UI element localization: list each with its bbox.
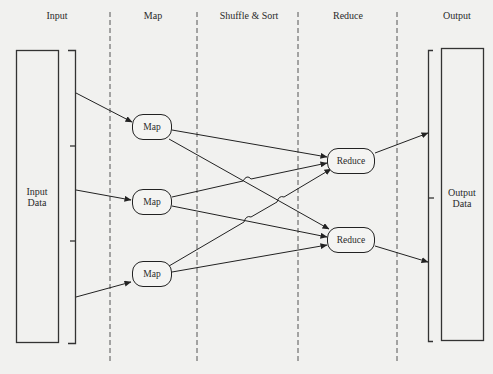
map-node-3: Map	[132, 261, 172, 287]
column-header-output: Output	[443, 10, 471, 21]
arrow-map2-reduce1	[172, 163, 327, 197]
arrow-split2-map2	[76, 190, 131, 200]
arrow-reduce1-output	[375, 133, 428, 153]
split-arrows	[76, 93, 132, 297]
arrow-map3-reduce1	[169, 169, 331, 266]
map-node-1: Map	[132, 114, 172, 140]
reduce-node-label: Reduce	[337, 235, 366, 245]
column-header-map: Map	[144, 10, 162, 21]
column-header-reduce: Reduce	[333, 10, 363, 21]
diagram-lines	[0, 0, 493, 374]
map-node-label: Map	[143, 197, 160, 207]
reduce-node-1: Reduce	[327, 148, 375, 174]
arrow-reduce2-output	[375, 246, 428, 262]
arrow-map2-reduce2	[172, 206, 327, 237]
column-header-input: Input	[46, 10, 67, 21]
map-node-2: Map	[132, 189, 172, 215]
column-header-shuffle-sort: Shuffle & Sort	[220, 10, 279, 21]
shuffle-arrows	[169, 130, 331, 272]
arrow-split3-map3	[76, 282, 131, 297]
output-bracket	[429, 51, 435, 342]
input-split-bracket	[68, 51, 76, 344]
reduce-node-2: Reduce	[327, 227, 375, 253]
arrow-map3-reduce2	[172, 245, 327, 272]
map-node-label: Map	[143, 122, 160, 132]
input-data-label: Input Data	[26, 186, 47, 208]
map-node-label: Map	[143, 269, 160, 279]
output-arrows	[375, 133, 428, 262]
mapreduce-diagram: Input Map Shuffle & Sort Reduce Output I…	[0, 0, 493, 374]
arrow-split1-map1	[76, 93, 132, 122]
arrow-map1-reduce1	[172, 130, 327, 157]
output-data-label: Output Data	[448, 187, 476, 209]
reduce-node-label: Reduce	[337, 156, 366, 166]
